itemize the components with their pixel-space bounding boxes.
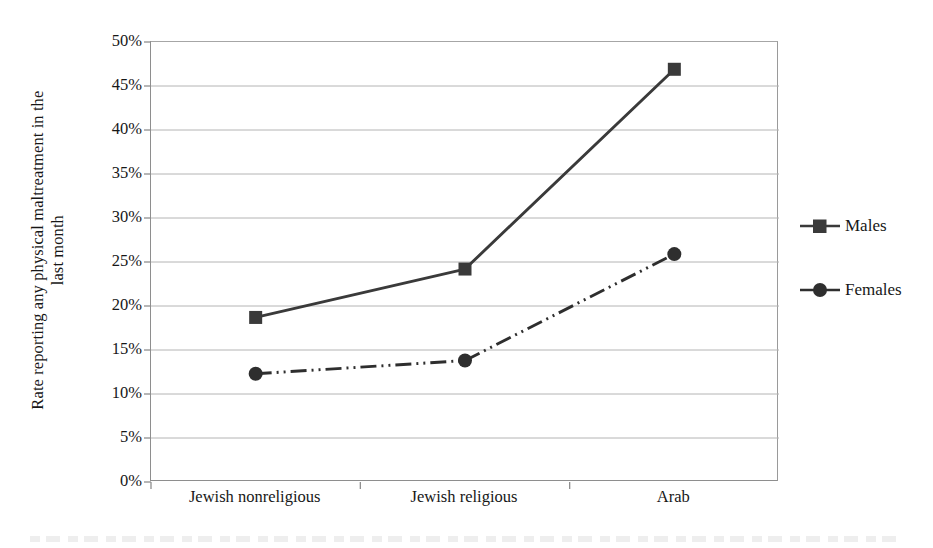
- y-axis-tick-label: 35%: [112, 163, 142, 183]
- y-axis-tick-label: 45%: [112, 75, 142, 95]
- y-axis-tick-labels: 0%5%10%15%20%25%30%35%40%45%50%: [86, 41, 142, 481]
- y-axis-tick-label: 10%: [112, 383, 142, 403]
- data-point-males-0[interactable]: [249, 311, 262, 324]
- data-point-females-0[interactable]: [249, 367, 263, 381]
- y-axis-title: Rate reporting any physical maltreatment…: [0, 0, 96, 500]
- legend-item-females[interactable]: Females: [800, 276, 930, 304]
- y-axis-title-text: Rate reporting any physical maltreatment…: [28, 90, 68, 409]
- y-axis-tick-label: 50%: [112, 31, 142, 51]
- chart-figure: Rate reporting any physical maltreatment…: [0, 0, 933, 548]
- y-axis-tick-label: 20%: [112, 295, 142, 315]
- legend-item-males[interactable]: Males: [800, 212, 930, 240]
- scan-caption-remnant: [30, 536, 900, 542]
- legend-label-males: Males: [845, 216, 887, 236]
- circle-marker-icon: [800, 280, 840, 300]
- plot-area: [150, 41, 778, 481]
- y-axis-title-line-1: Rate reporting any physical maltreatment…: [28, 90, 47, 409]
- y-axis-tick-label: 5%: [120, 427, 142, 447]
- x-axis-tick-label: Jewish religious: [411, 487, 518, 507]
- y-axis-tick-label: 15%: [112, 339, 142, 359]
- x-axis-tick-label: Arab: [657, 487, 690, 507]
- y-axis-tick-label: 30%: [112, 207, 142, 227]
- x-axis-tick-labels: Jewish nonreligiousJewish religiousArab: [150, 487, 778, 517]
- data-point-males-2[interactable]: [668, 63, 681, 76]
- data-point-females-1[interactable]: [458, 354, 472, 368]
- data-point-females-2[interactable]: [667, 247, 681, 261]
- plot-svg: [151, 42, 779, 482]
- chart-legend: Males Females: [800, 212, 930, 340]
- data-point-males-1[interactable]: [459, 263, 472, 276]
- y-axis-tick-label: 0%: [120, 471, 142, 491]
- y-axis-tick-label: 25%: [112, 251, 142, 271]
- square-marker-icon: [800, 216, 840, 236]
- legend-label-females: Females: [845, 280, 902, 300]
- y-axis-tick-label: 40%: [112, 119, 142, 139]
- x-axis-tick-label: Jewish nonreligious: [189, 487, 321, 507]
- y-axis-title-line-2: last month: [48, 90, 68, 409]
- series-line-males: [256, 69, 675, 317]
